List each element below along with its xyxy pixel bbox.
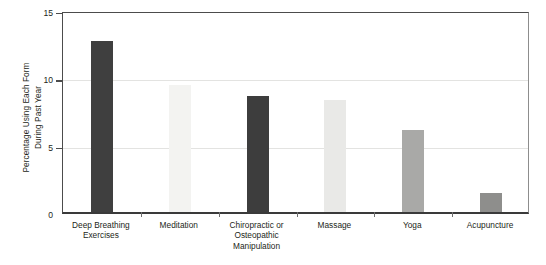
x-axis-labels: Deep Breathing ExercisesMeditationChirop… bbox=[62, 220, 529, 265]
y-tick-label: 5 bbox=[48, 143, 53, 153]
y-tick-label: 0 bbox=[48, 210, 53, 220]
plot-area: 051015 bbox=[62, 12, 529, 214]
y-axis-title: Percentage Using Each Form During Past Y… bbox=[21, 23, 44, 213]
gridline bbox=[63, 148, 528, 149]
y-tick-mark bbox=[56, 148, 63, 149]
x-tick-mark bbox=[219, 212, 220, 217]
x-tick-mark bbox=[141, 212, 142, 217]
x-tick-mark bbox=[374, 212, 375, 217]
bar bbox=[91, 41, 113, 212]
x-tick-mark bbox=[452, 212, 453, 217]
y-tick-label: 15 bbox=[43, 8, 53, 18]
bar bbox=[324, 100, 346, 212]
y-tick-mark bbox=[56, 80, 63, 81]
bar-chart: Percentage Using Each Form During Past Y… bbox=[0, 0, 546, 265]
gridline bbox=[63, 80, 528, 81]
bar bbox=[247, 96, 269, 212]
x-tick-mark bbox=[297, 212, 298, 217]
y-tick-label: 10 bbox=[43, 75, 53, 85]
x-axis-label: Acupuncture bbox=[442, 220, 538, 230]
bar bbox=[169, 85, 191, 212]
y-tick-mark bbox=[56, 13, 63, 14]
bar bbox=[480, 193, 502, 212]
bar bbox=[402, 130, 424, 212]
